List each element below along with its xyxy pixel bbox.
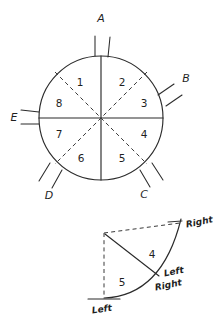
- perimeter-label-D: D: [45, 189, 53, 202]
- perimeter-label-A: A: [96, 12, 105, 25]
- sector-label-5: 5: [119, 152, 126, 164]
- sector-label-3: 3: [141, 97, 148, 109]
- detail-annotation-right-middle: Right: [154, 277, 183, 292]
- perimeter-label-C: C: [140, 188, 148, 201]
- detail-annotation-left-middle: Left: [163, 265, 185, 279]
- perimeter-mark-E: [21, 110, 39, 124]
- sector-label-8: 8: [56, 97, 63, 109]
- perimeter-label-E: E: [11, 111, 18, 124]
- detail-sector-label-5: 5: [119, 276, 126, 288]
- perimeter-label-B: B: [182, 72, 190, 85]
- perimeter-mark-D: [39, 163, 62, 188]
- sector-label-2: 2: [119, 76, 126, 88]
- detail-annotation-right-top: Right: [185, 214, 214, 229]
- sector-label-4: 4: [141, 128, 148, 140]
- detail-sector-label-4: 4: [149, 248, 156, 260]
- sector-label-7: 7: [56, 128, 63, 140]
- eight-sector-circle: 1 2 3 4 5 6 7 8 A B C D E: [11, 12, 190, 202]
- figure-canvas: 1 2 3 4 5 6 7 8 A B C D E: [0, 0, 218, 333]
- detail-top-dashed-edge: [104, 223, 180, 233]
- diagram-svg: 1 2 3 4 5 6 7 8 A B C D E: [0, 0, 218, 333]
- quarter-sector-detail: 4 5 Right Left Right Left: [88, 214, 214, 315]
- sector-label-6: 6: [78, 152, 85, 164]
- perimeter-mark-A: [95, 36, 110, 57]
- detail-annotation-left-bottom: Left: [91, 303, 113, 316]
- sector-label-1: 1: [77, 76, 84, 88]
- perimeter-mark-C: [140, 163, 163, 187]
